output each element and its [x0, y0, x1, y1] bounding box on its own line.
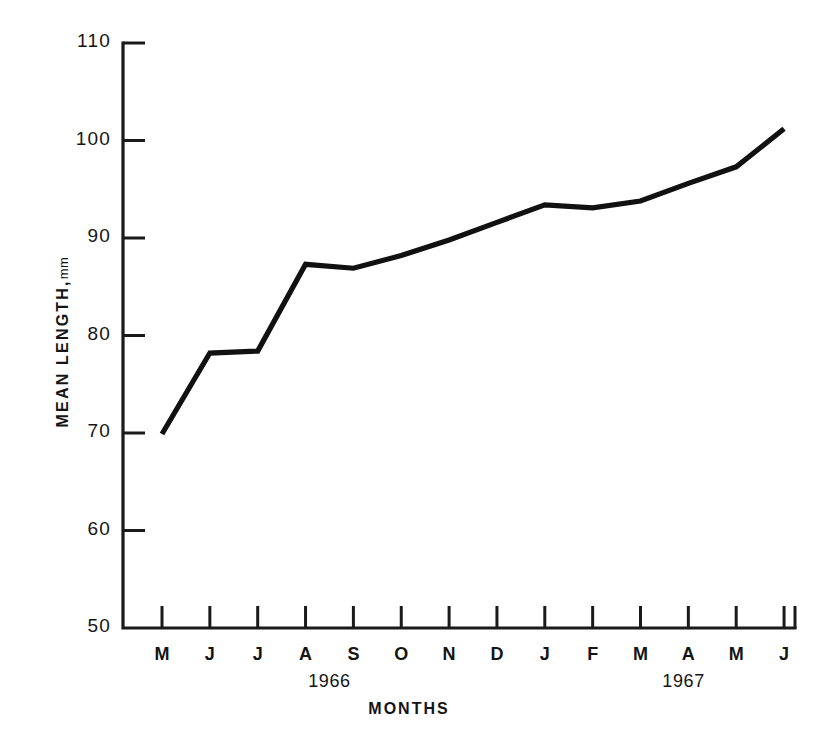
x-axis-tick-label: S [333, 644, 373, 665]
data-series-line [162, 129, 784, 434]
line-chart: 1101009080706050 MJJASONDJFMAMJ 19661967… [0, 0, 818, 749]
x-axis-tick-label: J [525, 644, 565, 665]
y-axis-tick-label: 60 [87, 518, 111, 540]
year-label: 1966 [289, 671, 369, 692]
y-axis-tick-label: 70 [87, 420, 111, 442]
x-axis-tick-label: N [429, 644, 469, 665]
x-axis-tick-label: J [190, 644, 230, 665]
y-axis-title-text: MEAN LENGTH, [54, 279, 71, 427]
y-axis-tick-label: 90 [87, 225, 111, 247]
x-axis-tick-label: J [764, 644, 804, 665]
x-axis-title: MONTHS [0, 700, 818, 718]
axis-ticks [123, 43, 795, 628]
axis-spine [123, 43, 795, 628]
y-axis-tick-label: 100 [76, 128, 111, 150]
y-axis-tick-label: 110 [77, 30, 111, 52]
x-axis-tick-label: O [381, 644, 421, 665]
x-axis-tick-label: M [716, 644, 756, 665]
y-axis-title: MEAN LENGTH,mm [54, 192, 72, 492]
x-axis-tick-label: J [238, 644, 278, 665]
y-axis-tick-label: 80 [87, 323, 111, 345]
x-axis-tick-label: M [621, 644, 661, 665]
x-axis-tick-label: F [573, 644, 613, 665]
x-axis-tick-label: D [477, 644, 517, 665]
x-axis-tick-label: A [668, 644, 708, 665]
y-axis-tick-label: 50 [87, 615, 111, 637]
axes-group [123, 43, 795, 628]
y-axis-unit-text: mm [56, 257, 71, 280]
x-axis-tick-label: A [286, 644, 326, 665]
x-axis-tick-label: M [142, 644, 182, 665]
year-label: 1967 [644, 671, 724, 692]
chart-plot-area [0, 0, 818, 749]
